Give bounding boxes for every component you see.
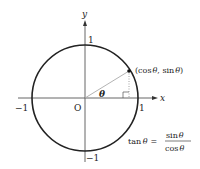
formula-numerator: sinθ <box>166 131 184 140</box>
right-angle-marker <box>123 92 129 98</box>
tick-pos-x: 1 <box>139 103 145 113</box>
y-axis <box>83 20 87 162</box>
radius-line <box>85 71 129 98</box>
origin-label: O <box>74 103 81 113</box>
y-axis-arrow-icon <box>83 20 87 26</box>
x-axis-arrow-icon <box>152 96 158 100</box>
tick-neg-x: −1 <box>15 103 28 113</box>
unit-circle-diagram: y x 1 −1 −1 1 O θ (cosθ, sinθ) tanθ= sin… <box>0 0 200 169</box>
point-label: (cosθ, sinθ) <box>135 66 183 75</box>
tangent-formula: tanθ= sinθ cosθ <box>128 131 191 153</box>
point-on-circle <box>127 69 131 73</box>
formula-lhs: tanθ= <box>128 137 157 146</box>
tick-neg-y: −1 <box>86 153 99 163</box>
x-axis-label: x <box>160 93 165 103</box>
tick-pos-y: 1 <box>88 35 94 45</box>
angle-label: θ <box>99 89 105 99</box>
formula-denominator: cosθ <box>165 144 184 153</box>
y-axis-label: y <box>81 9 88 19</box>
